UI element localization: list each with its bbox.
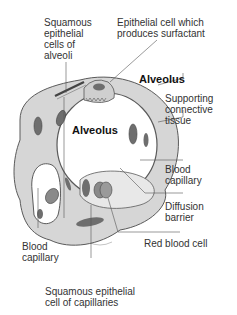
label-blood-capillary-right: Blood capillary xyxy=(165,164,202,186)
label-squamous-capillaries: Squamous epithelial cell of capillaries xyxy=(45,286,135,308)
label-alveolus-center: Alveolus xyxy=(72,125,118,136)
surfactant-cell xyxy=(84,80,114,103)
label-diffusion-barrier: Diffusion barrier xyxy=(165,201,204,223)
label-squamous-alveoli: Squamous epithelial cells of alveoli xyxy=(44,17,92,61)
label-supporting-tissue: Supporting connective tissue xyxy=(165,93,213,126)
alveolus-illustration xyxy=(0,0,237,315)
label-surfactant-cell: Epithelial cell which produces surfactan… xyxy=(117,17,205,39)
label-blood-capillary-left: Blood capillary xyxy=(22,241,59,263)
label-red-blood-cell: Red blood cell xyxy=(144,238,207,249)
label-alveolus-right: Alveolus xyxy=(139,74,185,85)
